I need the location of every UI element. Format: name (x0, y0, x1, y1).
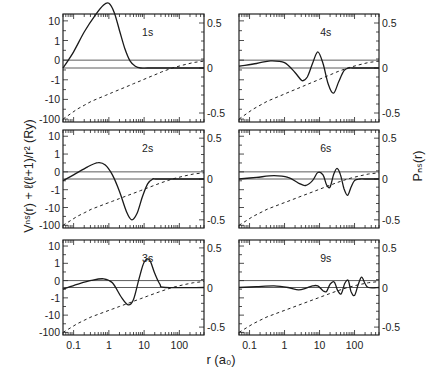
potential-curve-dashed (239, 61, 379, 119)
right-y-tick-label: 0 (207, 62, 213, 74)
panel-label-9s: 9s (320, 252, 331, 264)
left-y-tick-label: -100 (39, 326, 60, 338)
potential-curve-dashed (63, 282, 204, 333)
right-y-tick-label: 0 (382, 173, 388, 185)
wavefunction-1s (63, 3, 204, 68)
potential-curve-dashed (239, 282, 379, 333)
wavefunction-2s (63, 163, 204, 220)
left-y-tick-label: -1 (51, 292, 60, 304)
right-y-tick-label: -0.5 (207, 321, 225, 333)
right-y-tick-label: 0.5 (207, 17, 222, 29)
right-y-tick-label: 0 (382, 62, 388, 74)
right-y-tick-label: -0.5 (382, 214, 400, 226)
wavefunction-3s (63, 259, 204, 305)
left-y-tick-label: 1 (54, 148, 60, 160)
left-y-tick-label: 10 (48, 240, 60, 252)
x-tick-label: 1 (106, 339, 112, 351)
x-axis-title: r (a₀) (186, 352, 256, 367)
wavefunction-6s (239, 168, 379, 195)
left-y-tick-label: 1 (54, 35, 60, 47)
panel-label-2s: 2s (142, 142, 153, 154)
left-y-tick-label: 0 (54, 275, 60, 287)
panel-label-3s: 3s (142, 252, 153, 264)
left-y-axis-title: Vⁿˢ(r) + ℓ(ℓ+1)/r² (Ry) (22, 61, 38, 291)
x-tick-label: 1 (282, 339, 288, 351)
panel-label-6s: 6s (320, 142, 331, 154)
panel-label-1s: 1s (142, 26, 153, 38)
right-y-tick-label: 0 (207, 282, 213, 294)
left-y-tick-label: 0 (54, 54, 60, 66)
x-tick-label: 0.1 (66, 339, 81, 351)
left-y-tick-label: -1 (51, 184, 60, 196)
potential-curve-dashed (239, 173, 379, 226)
right-y-tick-label: -0.5 (207, 214, 225, 226)
panel-label-4s: 4s (320, 26, 331, 38)
left-y-tick-label: 0 (54, 166, 60, 178)
left-y-tick-label: 10 (48, 130, 60, 142)
x-tick-label: 100 (171, 339, 189, 351)
right-y-tick-label: 0.5 (207, 132, 222, 144)
x-tick-label: 10 (314, 339, 326, 351)
x-tick-label: 100 (346, 339, 364, 351)
right-y-tick-label: 0 (382, 282, 388, 294)
right-y-tick-label: -0.5 (382, 107, 400, 119)
left-y-tick-label: -10 (45, 93, 60, 105)
left-y-tick-label: -10 (45, 202, 60, 214)
figure-canvas: 1010-1-10-1000.50-0.51s1010-1-10-1000.50… (0, 0, 435, 382)
left-y-tick-label: -100 (39, 113, 60, 125)
potential-curve-dashed (63, 173, 204, 226)
left-y-tick-label: -100 (39, 219, 60, 231)
left-y-tick-label: 1 (54, 257, 60, 269)
right-y-tick-label: 0.5 (382, 242, 397, 254)
right-y-tick-label: -0.5 (207, 107, 225, 119)
right-y-axis-title: Pₙₛ(r) (410, 136, 426, 196)
x-tick-label: 0.1 (242, 339, 257, 351)
left-y-tick-label: 10 (48, 15, 60, 27)
wavefunction-4s (239, 52, 379, 93)
right-y-tick-label: 0 (207, 173, 213, 185)
right-y-tick-label: -0.5 (382, 321, 400, 333)
right-y-tick-label: 0.5 (382, 17, 397, 29)
left-y-tick-label: -1 (51, 74, 60, 86)
left-y-tick-label: -10 (45, 309, 60, 321)
right-y-tick-label: 0.5 (207, 242, 222, 254)
wavefunction-9s (239, 277, 379, 295)
potential-curve-dashed (63, 61, 204, 119)
right-y-tick-label: 0.5 (382, 132, 397, 144)
x-tick-label: 10 (138, 339, 150, 351)
